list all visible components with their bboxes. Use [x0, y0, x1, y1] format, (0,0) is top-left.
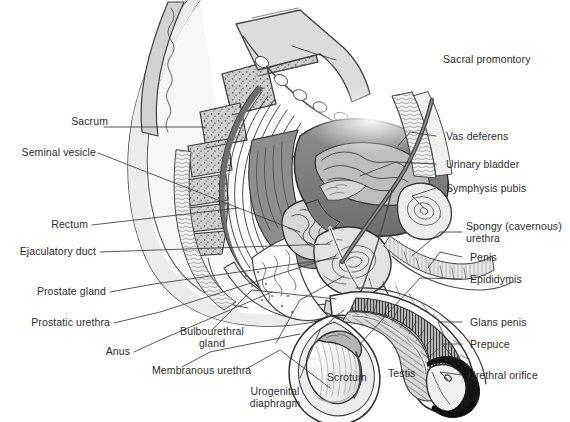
label-urethral-orifice: Urethral orifice	[468, 369, 568, 382]
label-bulbourethral-gland-line2: gland	[166, 337, 258, 350]
label-scrotum: Scrotum	[327, 371, 387, 384]
anatomy-figure: Sacrum Seminal vesicle Rectum Ejaculator…	[0, 0, 570, 422]
label-spongy-urethra-line1: Spongy (cavernous)	[466, 220, 570, 233]
label-glans-penis: Glans penis	[470, 316, 556, 329]
label-bulbourethral-gland-line1: Bulbourethral	[166, 325, 258, 338]
label-membranous-urethra: Membranous urethra	[152, 364, 282, 377]
label-sacral-promontory: Sacral promontory	[443, 53, 563, 66]
label-spongy-urethra-line2: urethra	[466, 232, 570, 245]
label-prostatic-urethra: Prostatic urethra	[16, 316, 110, 329]
label-epididymis: Epididymis	[470, 273, 550, 286]
label-urogenital-diaphragm-line2: diaphragm	[232, 397, 318, 410]
label-seminal-vesicle: Seminal vesicle	[6, 146, 96, 159]
label-penis: Penis	[470, 251, 530, 264]
label-urinary-bladder: Urinary bladder	[446, 158, 556, 171]
label-prepuce: Prepuce	[470, 338, 540, 351]
label-ejaculatory-duct: Ejaculatory duct	[8, 245, 96, 258]
label-prostate-gland: Prostate gland	[20, 285, 106, 298]
label-testis: Testis	[388, 367, 438, 380]
label-symphysis-pubis: Symphysis pubis	[446, 182, 561, 195]
label-rectum: Rectum	[28, 218, 88, 231]
label-vas-deferens: Vas deferens	[446, 130, 546, 143]
label-sacrum: Sacrum	[20, 115, 108, 128]
label-anus: Anus	[90, 345, 130, 358]
label-urogenital-diaphragm-line1: Urogenital	[232, 385, 318, 398]
